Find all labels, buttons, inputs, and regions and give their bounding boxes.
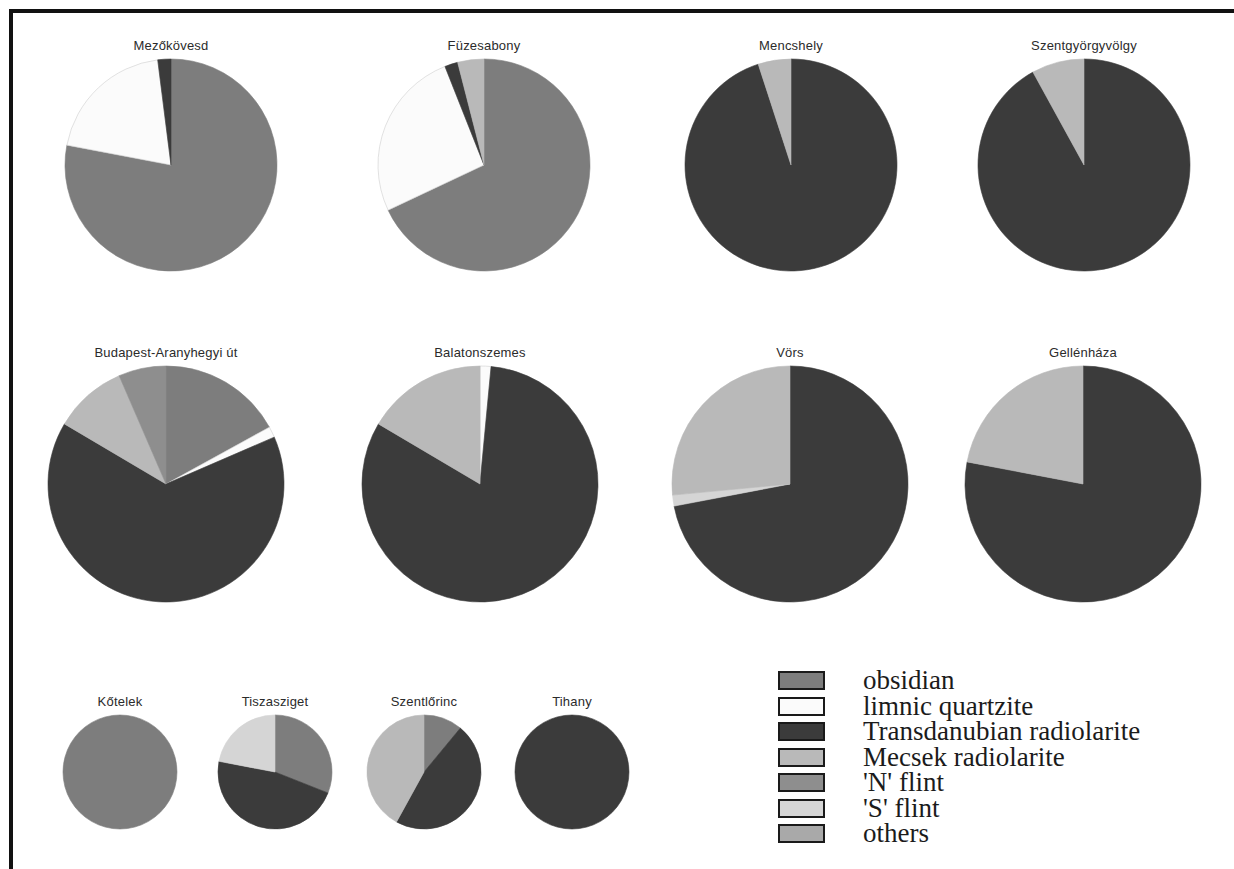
pie-title: Gellénháza: [963, 345, 1203, 360]
pie-body: [513, 713, 631, 831]
pie-title: Kőtelek: [61, 694, 179, 709]
pie-chart-fuzesabony: Füzesabony: [376, 38, 592, 273]
pie-title: Tiszasziget: [216, 694, 334, 709]
pie-chart-szentgyorgyvolgy: Szentgyörgyvölgy: [976, 38, 1192, 273]
legend-swatch-obsidian: [778, 671, 825, 690]
pie-body: [376, 57, 592, 273]
legend-swatch-s-flint: [778, 799, 825, 818]
pie-chart-kotelek: Kőtelek: [61, 694, 179, 831]
legend-item-mecsek-radiolarite: Mecsek radiolarite: [778, 745, 1140, 771]
pie-body: [46, 364, 286, 604]
legend: obsidianlimnic quartziteTransdanubian ra…: [778, 668, 1140, 847]
pie-chart-tiszasziget: Tiszasziget: [216, 694, 334, 831]
pie-chart-vors: Vörs: [670, 345, 910, 604]
legend-item-others: others: [778, 821, 1140, 847]
pie-body: [63, 57, 279, 273]
pie-title: Szentlőrinc: [365, 694, 483, 709]
pie-chart-budapest-aranyhegyi-ut: Budapest-Aranyhegyi út: [46, 345, 286, 604]
pie-slice-transdanubian-radiolarite: [515, 715, 629, 829]
pie-body: [963, 364, 1203, 604]
legend-swatch-limnic-quartzite: [778, 697, 825, 716]
pie-body: [976, 57, 1192, 273]
pie-title: Vörs: [670, 345, 910, 360]
legend-item-n-flint: 'N' flint: [778, 770, 1140, 796]
legend-item-limnic-quartzite: limnic quartzite: [778, 694, 1140, 720]
pie-slice-obsidian: [63, 715, 177, 829]
pie-body: [365, 713, 483, 831]
pie-chart-mezokovesd: Mezőkövesd: [63, 38, 279, 273]
pie-title: Tihany: [513, 694, 631, 709]
pie-chart-tihany: Tihany: [513, 694, 631, 831]
pie-chart-gellenhaza: Gellénháza: [963, 345, 1203, 604]
pie-title: Füzesabony: [376, 38, 592, 53]
pie-body: [61, 713, 179, 831]
legend-swatch-mecsek-radiolarite: [778, 748, 825, 767]
legend-item-obsidian: obsidian: [778, 668, 1140, 694]
legend-swatch-transdanubian-radiolarite: [778, 722, 825, 741]
pie-title: Budapest-Aranyhegyi út: [46, 345, 286, 360]
figure-canvas: MezőkövesdFüzesabonyMencshelySzentgyörgy…: [0, 0, 1234, 869]
pie-slice-mecsek-radiolarite: [672, 366, 790, 495]
pie-title: Mencshely: [683, 38, 899, 53]
pie-title: Szentgyörgyvölgy: [976, 38, 1192, 53]
pie-body: [360, 364, 600, 604]
pie-chart-szentlorinc: Szentlőrinc: [365, 694, 483, 831]
legend-swatch-n-flint: [778, 773, 825, 792]
pie-body: [670, 364, 910, 604]
legend-item-s-flint: 'S' flint: [778, 796, 1140, 822]
pie-title: Mezőkövesd: [63, 38, 279, 53]
pie-chart-balatonszemes: Balatonszemes: [360, 345, 600, 604]
frame-top-rule: [9, 9, 1234, 13]
legend-item-transdanubian-radiolarite: Transdanubian radiolarite: [778, 719, 1140, 745]
pie-title: Balatonszemes: [360, 345, 600, 360]
legend-label: others: [863, 820, 929, 847]
pie-body: [683, 57, 899, 273]
pie-chart-mencshely: Mencshely: [683, 38, 899, 273]
pie-body: [216, 713, 334, 831]
frame-left-rule: [9, 9, 13, 869]
legend-swatch-others: [778, 824, 825, 843]
